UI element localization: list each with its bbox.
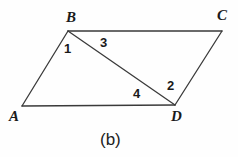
angle-label-1: 1 <box>64 42 71 55</box>
edge-CD <box>175 31 222 105</box>
edge-AB <box>22 31 68 106</box>
figure-caption: (b) <box>100 131 121 148</box>
geometry-figure: A B C D 1 3 2 4 (b) <box>0 0 238 157</box>
angle-label-2: 2 <box>167 79 174 92</box>
diagonal-BD <box>68 31 175 105</box>
edge-AD <box>22 105 175 106</box>
vertex-label-d: D <box>171 109 182 124</box>
vertex-label-b: B <box>66 10 76 25</box>
vertex-label-a: A <box>9 109 19 124</box>
vertex-label-c: C <box>217 8 227 23</box>
angle-label-3: 3 <box>100 36 107 49</box>
angle-label-4: 4 <box>133 87 140 100</box>
